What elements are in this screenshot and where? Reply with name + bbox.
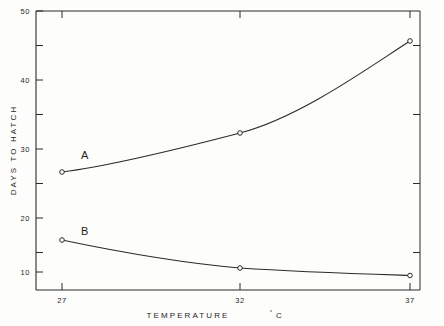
- data-point-b-32: [238, 266, 243, 271]
- y-tick-label-50: 50: [20, 7, 30, 16]
- y-tick-label-30: 30: [20, 145, 30, 154]
- series-b: [60, 238, 413, 278]
- x-axis-ticks: [62, 283, 410, 290]
- chart-plot: 50 40 30 20 10 27 32 37 TEMPERATURE ° C …: [0, 0, 444, 326]
- x-axis-title: TEMPERATURE: [147, 311, 230, 320]
- x-axis-unit: C: [276, 311, 284, 320]
- data-point-a-37: [408, 39, 413, 44]
- data-point-b-37: [408, 273, 413, 278]
- degree-symbol-icon: °: [270, 309, 275, 315]
- figure-container: 50 40 30 20 10 27 32 37 TEMPERATURE ° C …: [0, 0, 444, 326]
- x-tick-label-32: 32: [235, 296, 245, 305]
- y-tick-label-40: 40: [20, 76, 30, 85]
- series-a-label: A: [81, 149, 89, 161]
- y-tick-label-10: 10: [20, 268, 30, 277]
- x-tick-label-37: 37: [405, 296, 415, 305]
- y-tick-label-20: 20: [20, 214, 30, 223]
- data-point-b-27: [60, 238, 65, 243]
- plot-frame: [36, 11, 420, 290]
- data-point-a-27: [60, 170, 65, 175]
- series-a: [60, 39, 413, 175]
- series-b-label: B: [81, 225, 89, 237]
- data-point-a-32: [238, 131, 243, 136]
- y-axis-title: DAYS TO HATCH: [9, 105, 18, 196]
- y-axis-ticks: [36, 11, 43, 272]
- x-tick-label-27: 27: [57, 296, 67, 305]
